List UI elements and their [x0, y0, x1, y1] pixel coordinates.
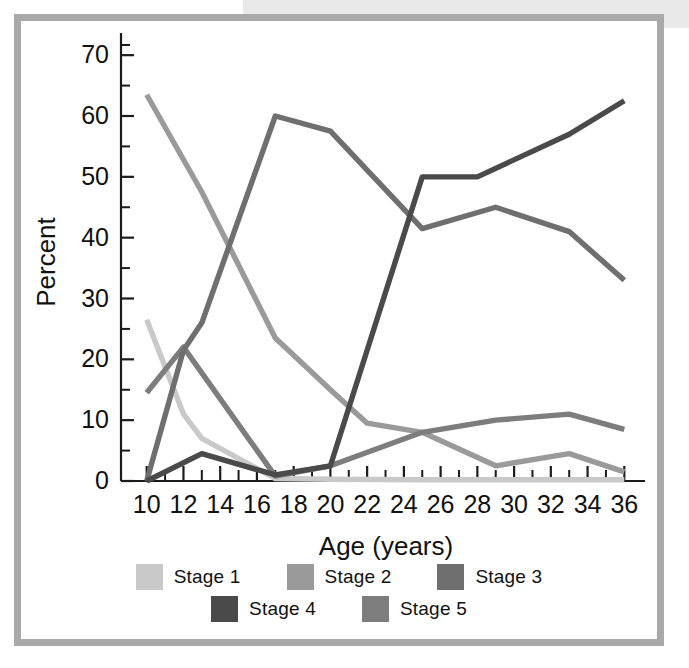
- legend-swatch-stage-1: [136, 564, 163, 590]
- x-tick-label: 18: [280, 490, 308, 518]
- legend-label: Stage 1: [174, 566, 241, 588]
- x-tick-label: 20: [316, 490, 344, 518]
- x-tick-label: 14: [206, 490, 234, 518]
- legend-swatch-stage-3: [437, 564, 464, 590]
- figure-frame: 0102030405060701012141618202224262830323…: [14, 14, 664, 646]
- legend-row-1: Stage 1Stage 2Stage 3: [136, 564, 543, 590]
- x-tick-label: 12: [170, 490, 198, 518]
- legend-row-2: Stage 4Stage 5: [211, 596, 467, 622]
- x-tick-label: 24: [390, 490, 418, 518]
- legend-item-stage-2[interactable]: Stage 2: [287, 564, 392, 590]
- y-tick-label: 0: [95, 466, 109, 494]
- legend-swatch-stage-2: [287, 564, 314, 590]
- x-tick-label: 16: [243, 490, 271, 518]
- x-tick-label: 32: [537, 490, 565, 518]
- legend-label: Stage 2: [325, 566, 392, 588]
- legend-item-stage-3[interactable]: Stage 3: [437, 564, 542, 590]
- legend-label: Stage 3: [475, 566, 542, 588]
- x-tick-label: 34: [574, 490, 602, 518]
- chart-legend: Stage 1Stage 2Stage 3Stage 4Stage 5: [21, 564, 657, 622]
- y-tick-label: 30: [81, 284, 109, 312]
- x-axis-title: Age (years): [319, 531, 453, 561]
- y-axis-title: Percent: [31, 216, 61, 306]
- legend-item-stage-4[interactable]: Stage 4: [211, 596, 316, 622]
- legend-label: Stage 5: [400, 598, 467, 620]
- y-tick-label: 20: [81, 344, 109, 372]
- legend-label: Stage 4: [249, 598, 316, 620]
- x-tick-label: 10: [133, 490, 161, 518]
- figure-inner: 0102030405060701012141618202224262830323…: [21, 21, 657, 639]
- line-chart-plot: 0102030405060701012141618202224262830323…: [21, 21, 657, 639]
- y-tick-label: 60: [81, 101, 109, 129]
- x-tick-label: 36: [610, 490, 638, 518]
- legend-item-stage-5[interactable]: Stage 5: [362, 596, 467, 622]
- x-tick-label: 28: [463, 490, 491, 518]
- legend-swatch-stage-4: [211, 596, 238, 622]
- y-tick-label: 50: [81, 162, 109, 190]
- x-tick-label: 26: [427, 490, 455, 518]
- x-tick-label: 22: [353, 490, 381, 518]
- legend-swatch-stage-5: [362, 596, 389, 622]
- x-tick-label: 30: [500, 490, 528, 518]
- y-tick-label: 40: [81, 223, 109, 251]
- y-tick-label: 70: [81, 40, 109, 68]
- legend-item-stage-1[interactable]: Stage 1: [136, 564, 241, 590]
- y-tick-label: 10: [81, 405, 109, 433]
